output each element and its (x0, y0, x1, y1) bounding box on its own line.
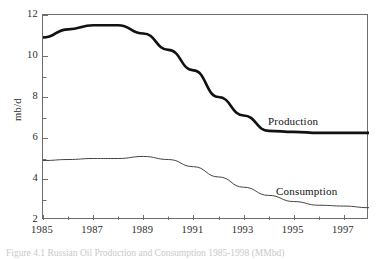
series-label-production: Production (268, 116, 318, 127)
y-tick-12: 12 (12, 9, 38, 20)
y-tick-4: 4 (12, 173, 38, 184)
y-tick-10: 10 (12, 50, 38, 61)
x-tick-1985: 1985 (19, 224, 65, 235)
series-lines (43, 25, 369, 207)
series-line-production (43, 25, 369, 133)
series-line-consumption (43, 156, 369, 207)
x-tick-1997: 1997 (320, 224, 366, 235)
x-tick-1987: 1987 (69, 224, 115, 235)
series-label-consumption: Consumption (276, 186, 338, 197)
x-tick-1991: 1991 (169, 224, 215, 235)
x-tick-1993: 1993 (220, 224, 266, 235)
y-axis-title: mb/d (12, 80, 23, 140)
x-tick-1995: 1995 (270, 224, 316, 235)
figure-caption: Figure 4.1 Russian Oil Production and Co… (6, 248, 382, 259)
x-tick-1989: 1989 (119, 224, 165, 235)
y-tick-2: 2 (12, 214, 38, 225)
